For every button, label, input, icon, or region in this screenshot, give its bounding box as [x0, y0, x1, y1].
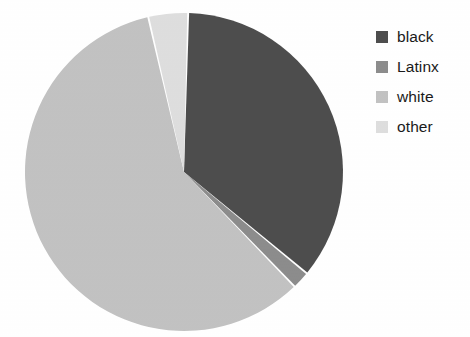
legend-item-latinx[interactable]: Latinx	[376, 52, 468, 82]
pie-chart-figure: black Latinx white other	[0, 0, 470, 337]
legend-swatch-black	[376, 31, 388, 43]
legend-item-other[interactable]: other	[376, 112, 468, 142]
pie-plot-area	[0, 0, 370, 337]
legend-swatch-other	[376, 121, 388, 133]
legend-swatch-white	[376, 91, 388, 103]
legend-label-other: other	[397, 119, 433, 135]
pie-chart-svg	[0, 0, 370, 337]
legend-label-latinx: Latinx	[397, 59, 439, 75]
legend-swatch-latinx	[376, 61, 388, 73]
legend-label-white: white	[397, 89, 434, 105]
legend-item-white[interactable]: white	[376, 82, 468, 112]
pie-slice-group	[25, 13, 343, 331]
legend-item-black[interactable]: black	[376, 22, 468, 52]
legend-label-black: black	[397, 29, 434, 45]
chart-legend: black Latinx white other	[376, 22, 468, 142]
